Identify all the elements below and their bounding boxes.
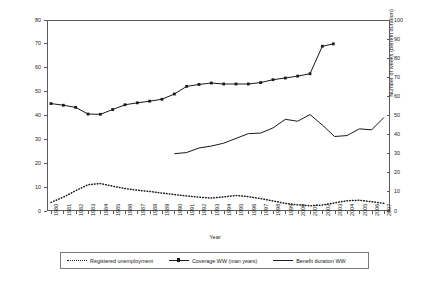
series-marker [296, 75, 299, 78]
x-axis-tick [51, 211, 52, 214]
y-axis-right-tick-label: 50 [394, 112, 412, 118]
series-marker [136, 101, 139, 104]
series-layer [47, 20, 390, 211]
series-marker [210, 82, 213, 85]
series-marker [198, 83, 201, 86]
x-axis-tick [285, 211, 286, 214]
series-marker [50, 102, 53, 105]
legend-label: Coverage WW (man years) [192, 258, 257, 264]
y-axis-right-tick-label: 90 [394, 36, 412, 42]
series-marker [259, 81, 262, 84]
x-axis-tick [100, 211, 101, 214]
x-axis-tick [224, 211, 225, 214]
x-axis-tick [384, 211, 385, 214]
x-axis-tick [113, 211, 114, 214]
x-axis-tick [236, 211, 237, 214]
y-axis-left-tick-label: 80 [25, 17, 41, 23]
x-axis-tick [125, 211, 126, 214]
y-axis-right-tick-label: 70 [394, 74, 412, 80]
series-marker [87, 113, 90, 116]
x-axis-tick [273, 211, 274, 214]
x-axis-title: Year [155, 234, 275, 242]
y-axis-right-tick-label: 0 [394, 208, 412, 214]
series-marker [62, 104, 65, 107]
series-marker [309, 72, 312, 75]
series-line-1 [51, 46, 322, 114]
series-marker [284, 77, 287, 80]
x-axis-tick [150, 211, 151, 214]
x-axis-tick [298, 211, 299, 214]
y-axis-right-tick-label: 60 [394, 93, 412, 99]
x-axis-tick [359, 211, 360, 214]
legend-swatch-marker-icon [169, 257, 189, 264]
series-marker [99, 113, 102, 116]
series-marker [272, 78, 275, 81]
series-marker [185, 85, 188, 88]
series-line-1-tail [322, 44, 333, 46]
series-marker [148, 100, 151, 103]
legend-swatch-dotted-icon [67, 257, 87, 264]
series-marker [222, 83, 225, 86]
legend-label: Registered unemployment [90, 258, 153, 264]
y-axis-left-tick-label: 60 [25, 64, 41, 70]
x-axis-tick [372, 211, 373, 214]
x-axis-tick [63, 211, 64, 214]
chart-legend: Registered unemploymentCoverage WW (man … [60, 252, 369, 269]
x-axis-tick [310, 211, 311, 214]
x-axis-tick [137, 211, 138, 214]
series-line-0 [51, 184, 384, 206]
series-marker [332, 42, 335, 45]
y-axis-right-tick-label: 100 [394, 17, 412, 23]
y-axis-right-tick-label: 30 [394, 150, 412, 156]
legend-swatch-solid-icon [273, 257, 293, 264]
series-marker [161, 98, 164, 101]
legend-label: Benefit duration WW [296, 258, 345, 264]
y-axis-right-tick-label: 80 [394, 55, 412, 61]
x-axis-tick [174, 211, 175, 214]
y-axis-right-tick-label: 40 [394, 131, 412, 137]
series-marker [74, 106, 77, 109]
y-axis-left-tick-label: 0 [25, 208, 41, 214]
y-axis-left-tick-label: 10 [25, 184, 41, 190]
series-marker [111, 108, 114, 111]
x-axis-tick [199, 211, 200, 214]
x-axis-tick [261, 211, 262, 214]
x-axis-tick [187, 211, 188, 214]
y-axis-right-tick-label: 10 [394, 188, 412, 194]
x-axis-tick [76, 211, 77, 214]
x-axis-tick [322, 211, 323, 214]
x-axis-tick [335, 211, 336, 214]
series-marker [124, 103, 127, 106]
y-axis-left-tick-label: 20 [25, 160, 41, 166]
chart-container: % of working-age population (coverage), … [0, 0, 435, 283]
series-marker [173, 93, 176, 96]
legend-item[interactable]: Coverage WW (man years) [169, 253, 257, 268]
y-axis-left-tick-label: 70 [25, 40, 41, 46]
legend-item[interactable]: Benefit duration WW [273, 253, 345, 268]
legend-item[interactable]: Registered unemployment [67, 253, 153, 268]
plot-area: 01020304050607080 0102030405060708090100… [47, 20, 390, 211]
x-axis-tick [88, 211, 89, 214]
series-marker [247, 83, 250, 86]
x-axis-tick [347, 211, 348, 214]
x-axis-tick [211, 211, 212, 214]
x-axis-tick [248, 211, 249, 214]
y-axis-left-tick-label: 30 [25, 136, 41, 142]
y-axis-left-tick-label: 50 [25, 88, 41, 94]
series-marker [235, 83, 238, 86]
y-axis-left-tick-label: 40 [25, 112, 41, 118]
y-axis-right-tick-label: 20 [394, 169, 412, 175]
series-line-2 [174, 115, 384, 154]
x-axis-tick [162, 211, 163, 214]
